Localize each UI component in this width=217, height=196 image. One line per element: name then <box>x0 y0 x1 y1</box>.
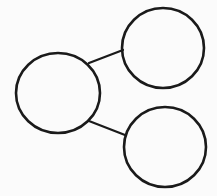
whole-circle[interactable] <box>16 53 100 133</box>
part-bottom-circle[interactable] <box>124 107 206 187</box>
bond-line-bottom <box>89 121 125 135</box>
number-bond-diagram <box>0 0 217 196</box>
bond-line-top <box>89 50 123 63</box>
part-top-circle[interactable] <box>122 8 204 88</box>
